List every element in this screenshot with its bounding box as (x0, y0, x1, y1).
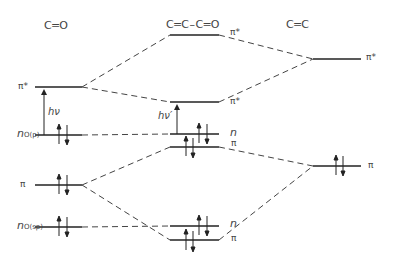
label-mid-n-lower: n (230, 218, 237, 229)
label-mid-pi-star-upper: π* (230, 28, 240, 37)
label-n: n (17, 219, 24, 232)
mo-diagram: C═O C═C–C═O C═C π* nO(p) π nO(sp) hν π* … (0, 0, 397, 263)
label-hv-middle: hν′ (158, 111, 172, 121)
label-mid-pi-upper: π (231, 139, 236, 148)
label-mid-pi-star-lower: π* (230, 97, 240, 106)
label-left-n-osp: nO(sp) (17, 220, 43, 231)
correlation-lines (82, 35, 313, 240)
mo-diagram-graphics (0, 0, 397, 263)
middle-levels (170, 35, 219, 240)
label-n: n (17, 127, 24, 140)
label-left-n-op: nO(p) (17, 128, 39, 139)
label-right-pi: π (368, 161, 373, 170)
label-subscript-op: O(p) (24, 131, 39, 139)
label-subscript-osp: O(sp) (24, 223, 43, 231)
label-left-pi-star: π* (18, 82, 28, 91)
column-title-carbonyl: C═O (44, 20, 68, 31)
column-title-alkene: C═C (286, 19, 309, 30)
electron-pairs (57, 123, 345, 252)
label-mid-pi-lower: π (231, 234, 236, 243)
label-hv-left: hν (48, 107, 60, 117)
column-title-enone: C═C–C═O (166, 19, 220, 30)
label-right-pi-star: π* (366, 53, 376, 62)
right-levels (313, 59, 361, 166)
label-mid-n-upper: n (230, 127, 237, 138)
label-left-pi: π (20, 180, 25, 189)
